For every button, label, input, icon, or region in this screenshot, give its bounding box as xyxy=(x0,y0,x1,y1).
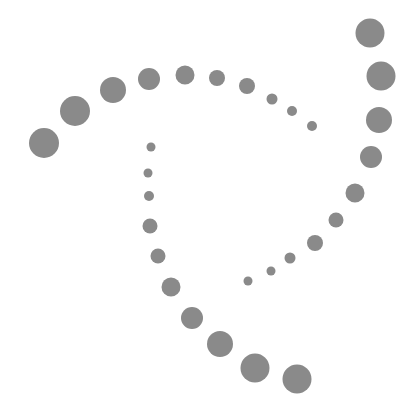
dot xyxy=(283,365,312,394)
dot xyxy=(181,307,203,329)
dot xyxy=(287,106,297,116)
dot xyxy=(360,146,382,168)
dot xyxy=(241,354,270,383)
dot xyxy=(285,253,296,264)
dot xyxy=(143,219,158,234)
dot xyxy=(176,66,195,85)
dot-group xyxy=(29,19,396,394)
dot xyxy=(151,249,166,264)
dot xyxy=(367,62,396,91)
dot xyxy=(29,128,59,158)
dot xyxy=(267,94,278,105)
dot xyxy=(244,277,253,286)
dot xyxy=(100,77,126,103)
dot xyxy=(307,235,323,251)
dot xyxy=(144,169,153,178)
dot xyxy=(307,121,317,131)
dot xyxy=(356,19,385,48)
dot-swirl-logo xyxy=(0,0,407,420)
dot xyxy=(144,191,154,201)
dot xyxy=(138,68,160,90)
dot xyxy=(366,107,392,133)
dot xyxy=(209,70,225,86)
dot xyxy=(329,213,344,228)
dot xyxy=(207,331,233,357)
dot xyxy=(162,278,181,297)
dot xyxy=(60,96,90,126)
dot xyxy=(239,78,255,94)
dot xyxy=(147,143,156,152)
dot xyxy=(346,184,365,203)
dot xyxy=(267,267,276,276)
